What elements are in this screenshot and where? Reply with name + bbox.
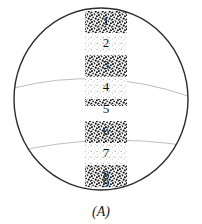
zone-label-4: 4 <box>103 79 110 94</box>
figure-caption: (A) <box>92 204 110 220</box>
figure-container: 1 2 3 4 5 6 7 8 9 (A) <box>0 0 202 224</box>
zone-label-1: 1 <box>103 13 110 28</box>
sphere-zone-diagram: 1 2 3 4 5 6 7 8 9 (A) <box>0 0 202 224</box>
zone-label-5: 5 <box>103 101 110 116</box>
zone-label-9: 9 <box>103 175 110 190</box>
zone-label-3: 3 <box>103 57 110 72</box>
zone-label-2: 2 <box>103 35 110 50</box>
zone-label-6: 6 <box>103 123 110 138</box>
zone-label-7: 7 <box>103 145 110 160</box>
